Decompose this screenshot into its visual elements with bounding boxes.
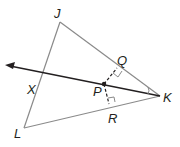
point-p [102,82,106,86]
label-j: J [53,6,61,21]
triangle-diagram: J K L X P Q R [0,0,180,147]
side-lk [24,96,160,128]
right-angle-r [108,97,115,102]
label-q: Q [117,53,127,68]
arrowhead-icon [5,62,15,69]
label-k: K [163,90,173,105]
label-l: L [14,126,21,141]
angle-arc-k [148,87,149,94]
segment-pq [104,68,117,84]
label-p: P [93,84,102,99]
label-x: X [26,82,37,97]
label-r: R [108,111,117,126]
side-jk [60,22,160,96]
segment-pr [104,84,109,104]
